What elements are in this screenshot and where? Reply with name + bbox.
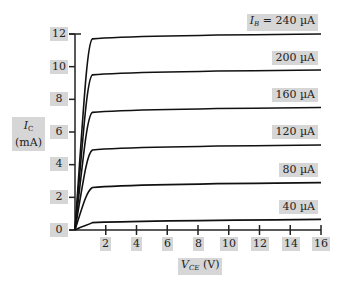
y-tick-0: 0: [50, 223, 68, 237]
series-label-200: 200 µA: [272, 51, 318, 65]
curve-120ua: [75, 145, 321, 230]
y-axis-label: IC (mA): [12, 117, 45, 151]
series-label-240-value: = 240 µA: [259, 14, 315, 27]
series-label-40: 40 µA: [279, 200, 318, 214]
y-axis-label-unit: (mA): [15, 136, 42, 149]
x-tick-2: 2: [100, 237, 111, 251]
x-tick-16: 16: [312, 237, 330, 251]
y-tick-6: 6: [50, 125, 68, 139]
x-tick-4: 4: [131, 237, 142, 251]
series-label-160: 160 µA: [272, 88, 318, 102]
x-tick-14: 14: [282, 237, 300, 251]
x-axis-label: VCE (V): [178, 258, 222, 275]
x-tick-6: 6: [162, 237, 173, 251]
x-axis-label-sub: CE: [189, 264, 199, 272]
x-axis-label-unit: (V): [199, 258, 219, 271]
series-label-80: 80 µA: [279, 163, 318, 177]
x-tick-8: 8: [193, 237, 204, 251]
y-tick-2: 2: [50, 190, 68, 204]
y-tick-10: 10: [50, 60, 68, 74]
y-tick-4: 4: [50, 157, 68, 171]
series-label-120: 120 µA: [272, 125, 318, 139]
y-tick-8: 8: [50, 92, 68, 106]
x-axis-label-symbol: V: [181, 258, 189, 271]
series-label-240: IB = 240 µA: [247, 14, 318, 31]
x-tick-12: 12: [251, 237, 269, 251]
x-tick-10: 10: [220, 237, 238, 251]
y-tick-12: 12: [50, 27, 68, 41]
y-axis-label-sub: C: [28, 125, 33, 133]
